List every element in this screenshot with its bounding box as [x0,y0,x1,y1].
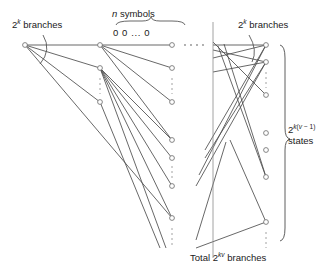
horizontal-ellipsis-dots [184,44,204,46]
node-group [23,43,269,225]
figure-canvas: 2k branches n symbols 0 0 ... 0 2k branc… [0,0,329,279]
label-left-branches: 2k branches [12,20,62,31]
label-right-branches: 2k branches [238,20,288,31]
label-zero-sequence: 0 0 ... 0 [113,28,150,39]
label-total-branches: Total 2kv branches [190,253,266,264]
label-n-symbols: n symbols [112,9,155,20]
edge-group-right [196,42,266,248]
edge-group-left [25,45,172,248]
trellis-diagram-svg [0,0,329,279]
label-states-count: 2k(v − 1)states [288,125,315,146]
